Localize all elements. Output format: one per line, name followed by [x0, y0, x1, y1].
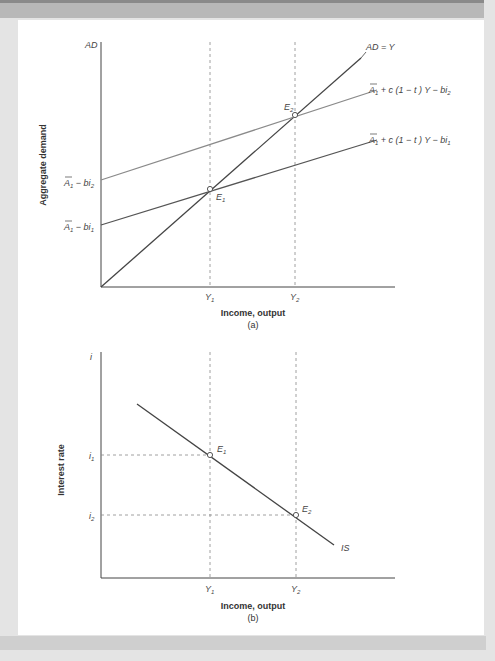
ad-line-upper-label: A1 + c (1 − t ) Y − bi2	[368, 84, 451, 96]
ad-equals-y-label: AD = Y	[365, 42, 396, 52]
equilibrium-e1-a	[207, 186, 212, 191]
y-axis-symbol-b: i	[90, 352, 93, 362]
x-tick-y1-a: Y1	[205, 292, 214, 303]
ad-y-leader	[361, 52, 366, 58]
x-axis-title-b: Income, output	[221, 601, 286, 611]
y-axis-symbol-a: AD	[84, 40, 98, 50]
x-tick-y2-b: Y2	[291, 584, 301, 595]
equilibrium-e2-b	[293, 512, 298, 517]
equilibrium-e2-a	[292, 112, 297, 117]
is-curve	[137, 404, 334, 545]
y-axis-title-a: Aggregate demand	[38, 124, 48, 206]
e1-label-a: E1	[216, 192, 225, 203]
ad-line-lower-label: A1 + c (1 − t ) Y − bi1	[368, 134, 451, 146]
e1-label-b: E1	[217, 444, 226, 455]
ad-line-upper	[101, 90, 377, 180]
tick-label-lower-intercept: A1 − bi1	[63, 221, 94, 233]
figure-canvas: AD AD = Y A1 + c (1 − t ) Y − bi2 A1 + c…	[0, 0, 495, 661]
svg-text:A1 + c (1 − t ) Y − bi1: A1 + c (1 − t ) Y − bi1	[368, 135, 451, 146]
equilibrium-e1-b	[207, 452, 212, 457]
ad-line-lower	[101, 140, 377, 225]
e2-label-a: E2	[284, 102, 294, 113]
panel-a: AD AD = Y A1 + c (1 − t ) Y − bi2 A1 + c…	[38, 40, 451, 330]
x-tick-y1-b: Y1	[205, 584, 214, 595]
is-curve-label: IS	[341, 543, 350, 553]
tick-label-upper-intercept: A1 − bi2	[63, 177, 95, 189]
svg-text:A1 − bi2: A1 − bi2	[63, 178, 95, 189]
x-axis-title-a: Income, output	[221, 308, 286, 318]
svg-text:A1 − bi1: A1 − bi1	[63, 222, 94, 233]
e2-label-b: E2	[302, 504, 312, 515]
panel-caption-b: (b)	[248, 613, 259, 623]
y-tick-i1: i1	[89, 451, 94, 462]
panel-caption-a: (a)	[248, 320, 259, 330]
svg-text:A1 + c (1 − t ) Y − bi2: A1 + c (1 − t ) Y − bi2	[368, 85, 451, 96]
y-tick-i2: i2	[89, 511, 95, 522]
ad-equals-y-line	[101, 58, 361, 287]
y-axis-title-b: Interest rate	[56, 444, 66, 496]
panel-b: i IS E1 E2 i1 i2 Y1 Y2 Income, output (b…	[56, 352, 395, 623]
x-tick-y2-a: Y2	[290, 292, 300, 303]
